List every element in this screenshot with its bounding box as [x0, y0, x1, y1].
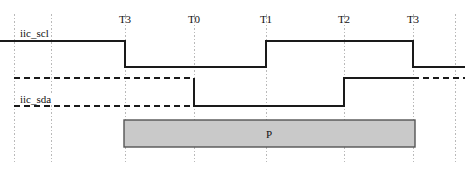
annotation-box-label: P: [266, 129, 272, 140]
time-marker-label-2: T1: [260, 14, 272, 25]
waveform-iic_scl: [0, 41, 465, 67]
timing-diagram-canvas: [0, 0, 465, 170]
time-marker-label-0: T3: [119, 14, 131, 25]
reference-lines-group: [14, 78, 465, 106]
signal-label-iic_sda: iic_sda: [18, 94, 53, 105]
waveform-iic_sda: [194, 78, 413, 106]
signal-label-iic_scl: iic_scl: [18, 28, 51, 39]
time-marker-label-4: T3: [407, 14, 419, 25]
timing-diagram: T3T0T1T2T3 iic_scliic_sda P: [0, 0, 465, 170]
time-marker-label-1: T0: [188, 14, 200, 25]
signal-waveforms-group: [0, 41, 465, 106]
time-marker-label-3: T2: [338, 14, 350, 25]
